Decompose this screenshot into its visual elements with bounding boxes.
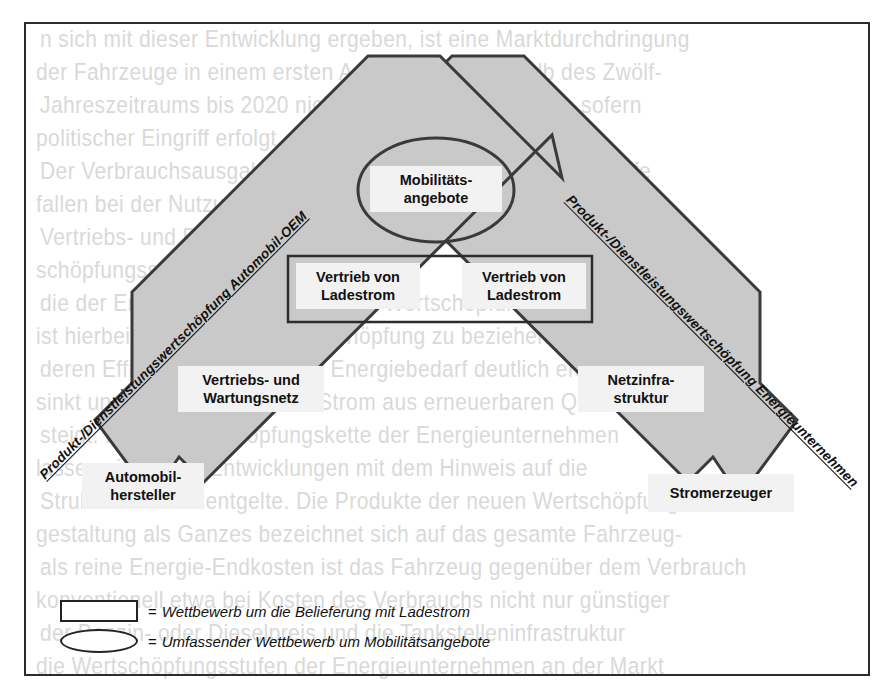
legend-row: = Umfassender Wettbewerb um Mobilitätsan… [60,626,530,656]
node-charging-sales-right-line2: Ladestrom [472,286,576,304]
legend-equals-sign: = [148,603,157,620]
node-charging-sales-left: Vertrieb von Ladestrom [296,263,420,309]
node-sales-service-network: Vertriebs- und Wartungsnetz [178,366,324,412]
node-charging-sales-right: Vertrieb von Ladestrom [462,263,586,309]
node-grid-infrastructure-line2: struktur [588,389,694,407]
node-power-producer: Stromerzeuger [648,474,794,512]
node-sales-service-network-line2: Wartungsnetz [188,389,314,407]
legend-row: = Wettbewerb um die Belieferung mit Lade… [60,596,530,626]
node-mobility-offer-line1: Mobilitäts- [380,171,492,189]
node-power-producer-text: Stromerzeuger [670,484,772,502]
node-car-manufacturer: Automobil- hersteller [82,463,204,509]
legend-text-charging-competition: Wettbewerb um die Belieferung mit Ladest… [162,603,470,620]
legend-equals-sign: = [148,633,157,650]
node-mobility-offer: Mobilitäts- angebote [370,166,502,212]
node-charging-sales-right-line1: Vertrieb von [472,268,576,286]
node-grid-infrastructure: Netzinfra- struktur [578,366,704,412]
node-charging-sales-left-line2: Ladestrom [306,286,410,304]
legend-text-mobility-competition: Umfassender Wettbewerb um Mobilitätsange… [162,633,490,650]
legend: = Wettbewerb um die Belieferung mit Lade… [60,596,530,656]
node-sales-service-network-line1: Vertriebs- und [188,371,314,389]
node-mobility-offer-line2: angebote [380,189,492,207]
node-charging-sales-left-line1: Vertrieb von [306,268,410,286]
node-car-manufacturer-line2: hersteller [92,486,194,504]
node-grid-infrastructure-line1: Netzinfra- [588,371,694,389]
node-car-manufacturer-line1: Automobil- [92,468,194,486]
rectangle-symbol-icon [60,600,138,622]
crossing-arrows-diagram [0,0,886,691]
ellipse-symbol-icon [60,629,138,653]
